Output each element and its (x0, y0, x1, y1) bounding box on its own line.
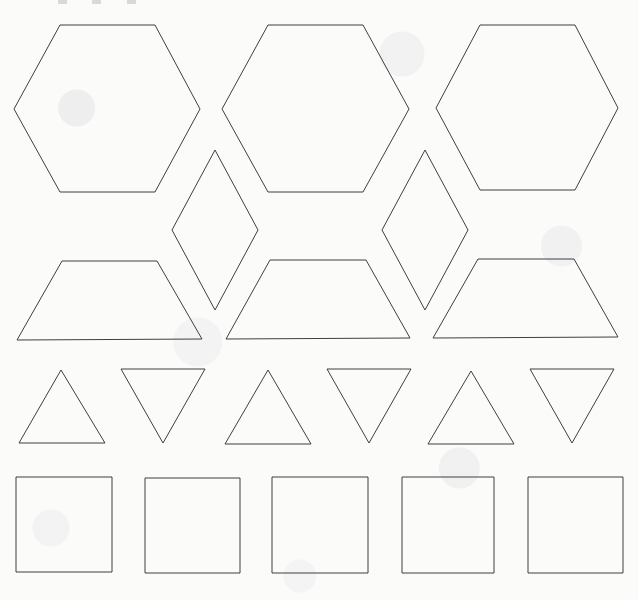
square-2: Square 2 (145, 478, 240, 573)
square-4: Square 4 (402, 477, 494, 573)
triangle-6-down: Triangle 6 (point down) (530, 369, 614, 443)
hexagon-row: Hexagon 1Hexagon 2Hexagon 3 (14, 25, 618, 192)
triangle-3-up: Triangle 3 (point up) (225, 370, 311, 444)
trapezoid-3: Trapezoid 3 (433, 259, 618, 338)
trapezoid-1: Trapezoid 1 (17, 261, 202, 340)
rhombus-row: Rhombus 1Rhombus 2 (172, 150, 468, 310)
hexagon-1: Hexagon 1 (14, 25, 200, 192)
rhombus-1: Rhombus 1 (172, 150, 258, 310)
trapezoid-2: Trapezoid 2 (226, 260, 410, 339)
triangle-row: Triangle 1 (point up)Triangle 2 (point d… (19, 369, 614, 444)
triangle-4-down: Triangle 4 (point down) (327, 369, 411, 443)
square-1: Square 1 (16, 477, 112, 572)
trapezoid-row: Trapezoid 1Trapezoid 2Trapezoid 3 (17, 259, 618, 340)
shape-canvas: Hexagon 1Hexagon 2Hexagon 3 Rhombus 1Rho… (0, 0, 638, 600)
hexagon-3: Hexagon 3 (436, 25, 618, 190)
rhombus-2: Rhombus 2 (382, 150, 468, 310)
square-row: Square 1Square 2Square 3Square 4Square 5 (16, 477, 623, 573)
triangle-2-down: Triangle 2 (point down) (121, 369, 205, 443)
shapes-sheet: Hexagon 1Hexagon 2Hexagon 3 Rhombus 1Rho… (0, 0, 638, 600)
triangle-1-up: Triangle 1 (point up) (19, 370, 105, 443)
hexagon-2: Hexagon 2 (222, 25, 409, 192)
square-3: Square 3 (272, 477, 368, 573)
square-5: Square 5 (528, 477, 623, 573)
triangle-5-up: Triangle 5 (point up) (428, 371, 514, 444)
